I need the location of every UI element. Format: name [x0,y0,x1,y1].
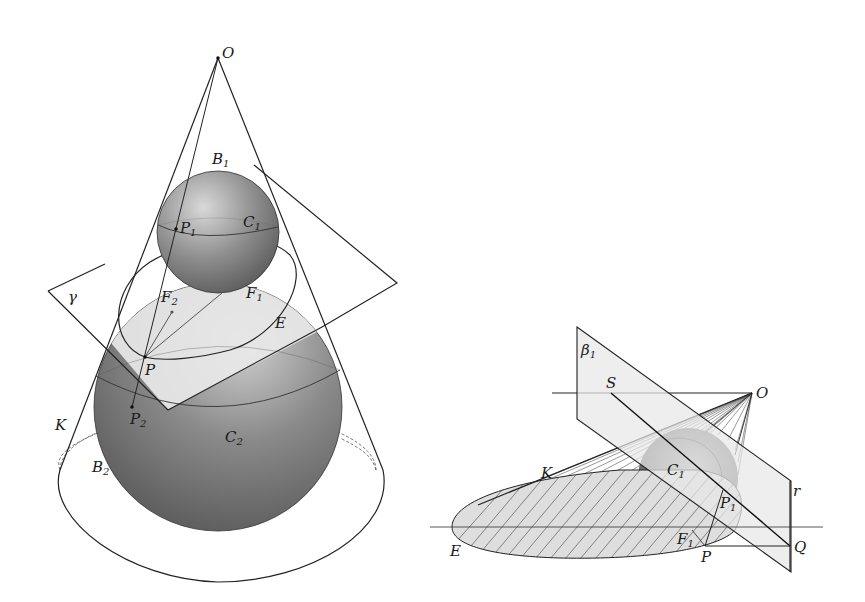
label-p: P [144,361,156,379]
label-f1: F1 [245,284,263,303]
label-e-right: E [449,542,461,560]
point-f2 [170,310,173,313]
label-q: Q [794,538,806,556]
diagram-svg: O B1 P1 C1 γ F2 F1 E P P2 K C2 B2 [0,0,865,602]
point-p2 [130,405,134,409]
right-figure: β1 S O C1 K r P1 F1 Q P E [430,327,823,572]
figure-canvas: O B1 P1 C1 γ F2 F1 E P P2 K C2 B2 [0,0,865,602]
label-o: O [222,44,234,62]
point-p1 [174,227,178,231]
left-figure: O B1 P1 C1 γ F2 F1 E P P2 K C2 B2 [48,44,397,582]
label-s: S [606,374,616,392]
label-k-right: K [540,464,553,482]
label-gamma: γ [68,288,77,306]
label-r: r [793,482,801,500]
point-p [143,355,147,359]
label-b1: B1 [211,150,229,169]
label-e: E [274,314,286,332]
label-k: K [54,416,67,434]
point-o [216,56,220,60]
label-p-right: P [700,548,712,566]
label-o-right: O [756,384,768,402]
